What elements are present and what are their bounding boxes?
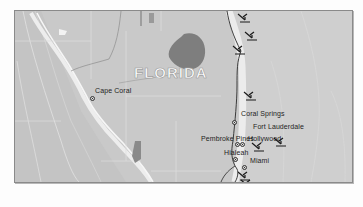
airport-icon[interactable] — [273, 137, 287, 147]
map-viewport[interactable]: FLORIDA Cape Coral Coral Springs Fort La… — [14, 10, 353, 183]
city-label-miami[interactable]: Miami — [250, 157, 269, 165]
airport-icon[interactable] — [237, 13, 251, 23]
city-label-coral-springs[interactable]: Coral Springs — [241, 110, 285, 118]
city-label-cape-coral[interactable]: Cape Coral — [95, 87, 131, 95]
city-label-fort-lauderdale[interactable]: Fort Lauderdale — [253, 123, 304, 131]
city-label-hialeah[interactable]: Hialeah — [224, 149, 248, 157]
airport-icon[interactable] — [251, 142, 265, 152]
city-marker-hialeah[interactable] — [233, 157, 238, 162]
city-label-pembroke-pines[interactable]: Pembroke Pines — [201, 135, 254, 143]
airport-icon[interactable] — [232, 45, 246, 55]
city-marker-miami[interactable] — [242, 165, 247, 170]
map-base — [15, 11, 352, 182]
airport-icon[interactable] — [243, 91, 257, 101]
airport-icon[interactable] — [244, 31, 258, 41]
city-marker-coral-springs[interactable] — [232, 120, 237, 125]
state-label: FLORIDA — [134, 64, 208, 81]
airport-icon[interactable] — [240, 179, 254, 183]
city-marker-hollywood[interactable] — [240, 142, 245, 147]
city-marker-cape-coral[interactable] — [90, 96, 95, 101]
small-lake — [149, 13, 154, 23]
map-page: FLORIDA Cape Coral Coral Springs Fort La… — [0, 0, 363, 207]
